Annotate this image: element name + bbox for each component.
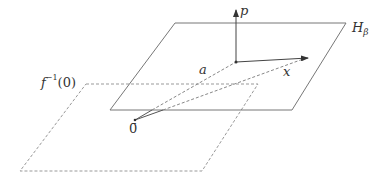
label-p-text: p [240, 3, 248, 18]
label-p: p [240, 4, 248, 17]
vector-a-dashed [152, 62, 236, 110]
label-a: a [199, 63, 207, 76]
label-h-beta: Hβ [352, 21, 369, 37]
label-beta-subscript: β [363, 27, 368, 37]
base-point [235, 61, 238, 64]
plane-f-inverse-zero [20, 84, 258, 171]
label-a-text: a [199, 62, 207, 77]
diagram-canvas [0, 0, 390, 186]
label-origin: 0̄ [129, 122, 137, 135]
label-f-argument: (0) [58, 75, 76, 90]
label-f-inverse-zero: f−1(0) [41, 74, 76, 89]
label-x-text: x [283, 64, 290, 79]
label-f-superscript: −1 [46, 73, 58, 82]
label-h-text: H [352, 20, 363, 35]
label-origin-text: 0̄ [129, 121, 137, 136]
label-x: x [283, 65, 290, 78]
